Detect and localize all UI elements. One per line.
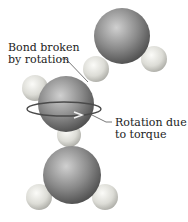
top-water-molecule [83,8,167,82]
bond-broken-label: Bond broken by rotation [8,42,80,66]
rotation-leader-line [90,114,112,122]
water-molecules-diagram [0,0,188,222]
middle-water-molecule [22,75,101,147]
oxygen-atom [94,8,150,64]
oxygen-atom [43,146,101,204]
bottom-water-molecule [26,146,118,210]
rotation-label: Rotation due to torque [115,117,187,141]
hydrogen-atom [83,56,109,82]
label-line: to torque [115,129,187,141]
label-line: by rotation [8,54,80,66]
